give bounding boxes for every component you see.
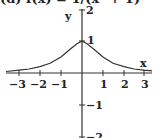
x-tick-label: −3 [9,78,26,91]
y-tick-label: −2 [86,131,103,138]
x-tick-label: −2 [30,78,47,91]
x-tick-label: 1 [100,78,108,91]
x-axis-label: x [140,57,147,70]
x-tick-label: −1 [51,78,68,91]
y-tick-label: 2 [86,4,94,17]
x-tick-label: 3 [141,78,149,91]
plot-area: x y −3 −2 −1 1 2 3 2 1 −1 −2 [0,0,154,138]
y-tick-label: −1 [86,99,103,112]
function-curve [6,41,152,72]
y-tick-label: 1 [87,34,95,47]
x-tick-label: 2 [121,78,129,91]
y-axis-label: y [64,10,72,23]
